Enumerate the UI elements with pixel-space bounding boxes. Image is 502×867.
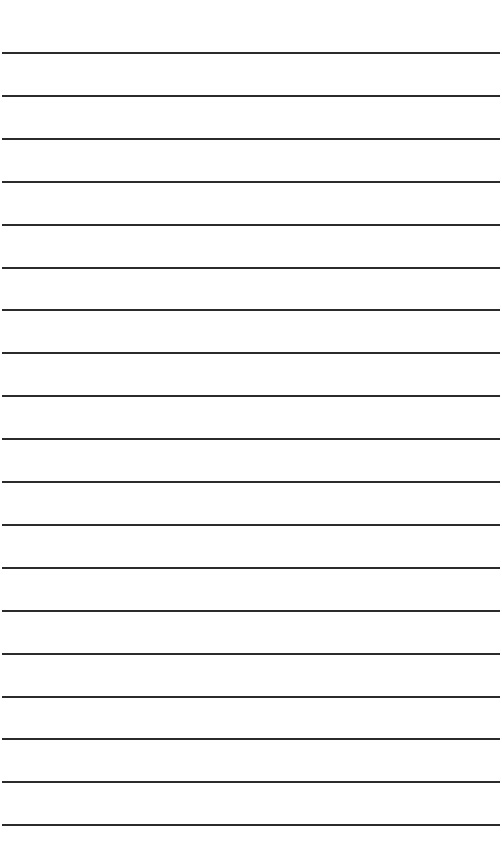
ruled-line: [2, 696, 500, 698]
ruled-line: [2, 481, 500, 483]
ruled-line: [2, 653, 500, 655]
ruled-line: [2, 95, 500, 97]
ruled-line: [2, 138, 500, 140]
ruled-line: [2, 781, 500, 783]
ruled-line: [2, 567, 500, 569]
ruled-line: [2, 52, 500, 54]
ruled-line: [2, 738, 500, 740]
ruled-line: [2, 181, 500, 183]
ruled-line: [2, 824, 500, 826]
ruled-line: [2, 352, 500, 354]
ruled-line: [2, 610, 500, 612]
ruled-line: [2, 395, 500, 397]
ruled-line: [2, 267, 500, 269]
ruled-line: [2, 309, 500, 311]
ruled-line: [2, 438, 500, 440]
ruled-line: [2, 224, 500, 226]
ruled-line: [2, 524, 500, 526]
